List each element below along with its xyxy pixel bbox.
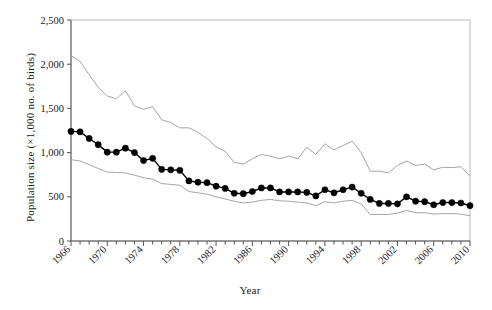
data-point — [140, 157, 146, 163]
data-point — [222, 185, 228, 191]
data-point — [276, 189, 282, 195]
data-point — [258, 185, 264, 191]
x-tick-label: 1990 — [267, 244, 290, 267]
data-point — [249, 188, 255, 194]
data-point — [168, 167, 174, 173]
y-tick-label: 2,500 — [40, 15, 64, 26]
data-point — [313, 193, 319, 199]
population-trend-chart: 05001,0001,5002,0002,5001966197019741978… — [0, 0, 492, 310]
data-point — [403, 194, 409, 200]
data-point — [77, 129, 83, 135]
x-tick-label: 2006 — [413, 244, 436, 267]
data-point — [213, 183, 219, 189]
svg-text:1974: 1974 — [122, 243, 145, 266]
data-point — [449, 199, 455, 205]
x-tick-label: 1994 — [304, 243, 327, 266]
x-tick-label: 2002 — [376, 244, 399, 267]
data-point — [231, 190, 237, 196]
x-axis-title: Year — [239, 284, 260, 296]
data-point — [349, 184, 355, 190]
svg-text:1994: 1994 — [304, 243, 327, 266]
y-tick-label: 2,000 — [40, 59, 64, 70]
svg-text:2002: 2002 — [376, 244, 399, 267]
data-point — [104, 149, 110, 155]
data-point — [86, 135, 92, 141]
data-point — [431, 202, 437, 208]
data-point — [358, 190, 364, 196]
data-point — [422, 199, 428, 205]
data-point — [331, 190, 337, 196]
svg-text:2006: 2006 — [413, 244, 436, 267]
data-point — [177, 167, 183, 173]
data-point — [376, 200, 382, 206]
data-point — [394, 201, 400, 207]
data-point — [286, 189, 292, 195]
svg-text:1982: 1982 — [195, 244, 218, 267]
series-line-1 — [71, 55, 470, 176]
data-point — [467, 203, 473, 209]
svg-text:1970: 1970 — [86, 244, 109, 267]
x-tick-label: 1970 — [86, 244, 109, 267]
y-tick-label: 500 — [48, 191, 64, 202]
svg-text:2010: 2010 — [449, 244, 472, 267]
data-point — [304, 189, 310, 195]
svg-text:1966: 1966 — [50, 244, 73, 267]
data-point — [150, 155, 156, 161]
data-point — [267, 185, 273, 191]
x-tick-label: 2010 — [449, 244, 472, 267]
data-point — [385, 200, 391, 206]
data-point — [204, 180, 210, 186]
data-point — [412, 198, 418, 204]
data-point — [186, 178, 192, 184]
y-tick-label: 1,500 — [40, 103, 64, 114]
x-tick-label: 1974 — [122, 243, 145, 266]
data-point — [295, 189, 301, 195]
y-axis-title: Population size (×1,000 no. of birds) — [24, 53, 36, 222]
data-point — [240, 191, 246, 197]
x-tick-label: 1978 — [159, 244, 182, 267]
y-tick-label: 1,000 — [40, 147, 64, 158]
plot-frame — [71, 20, 470, 241]
data-point — [367, 196, 373, 202]
data-point — [131, 150, 137, 156]
x-tick-label: 1982 — [195, 244, 218, 267]
data-point — [95, 142, 101, 148]
chart-figure: 05001,0001,5002,0002,5001966197019741978… — [0, 0, 492, 310]
svg-text:1990: 1990 — [267, 244, 290, 267]
data-point — [113, 149, 119, 155]
x-tick-label: 1986 — [231, 244, 254, 267]
svg-text:1978: 1978 — [159, 244, 182, 267]
data-point — [340, 187, 346, 193]
data-point — [122, 145, 128, 151]
x-tick-label: 1998 — [340, 244, 363, 267]
series-line-0 — [71, 131, 470, 205]
data-point — [322, 187, 328, 193]
data-point — [159, 166, 165, 172]
svg-text:1998: 1998 — [340, 244, 363, 267]
data-point — [440, 199, 446, 205]
data-point — [68, 128, 74, 134]
svg-text:1986: 1986 — [231, 244, 254, 267]
data-point — [195, 179, 201, 185]
x-tick-label: 1966 — [50, 244, 73, 267]
data-point — [458, 200, 464, 206]
